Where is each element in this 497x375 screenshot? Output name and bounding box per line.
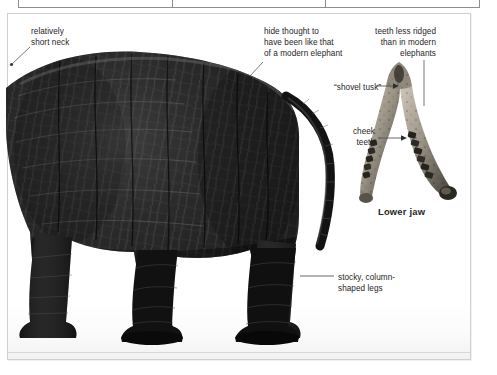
ground-shadow [8, 300, 470, 359]
figure-page: relatively short neck hide thought to ha… [0, 0, 497, 375]
ground-line [8, 352, 470, 353]
callout-cheek-teeth: cheek teeth [344, 126, 375, 148]
callout-stocky-column-shaped-legs: stocky, column- shaped legs [338, 272, 395, 294]
callout-relatively-short-neck: relatively short neck [31, 26, 69, 48]
inset-caption-lower-jaw: Lower jaw [378, 206, 425, 217]
top-table-cell [326, 0, 480, 8]
top-table-cell [173, 0, 327, 8]
callout-shovel-tusk: “shovel tusk” [334, 82, 381, 93]
top-table-cell [18, 0, 173, 8]
callout-hide-like-modern-elephant: hide thought to have been like that of a… [264, 26, 342, 60]
callout-teeth-less-ridged: teeth less ridged than in modern elephan… [360, 26, 436, 60]
top-table-strip [18, 0, 480, 8]
